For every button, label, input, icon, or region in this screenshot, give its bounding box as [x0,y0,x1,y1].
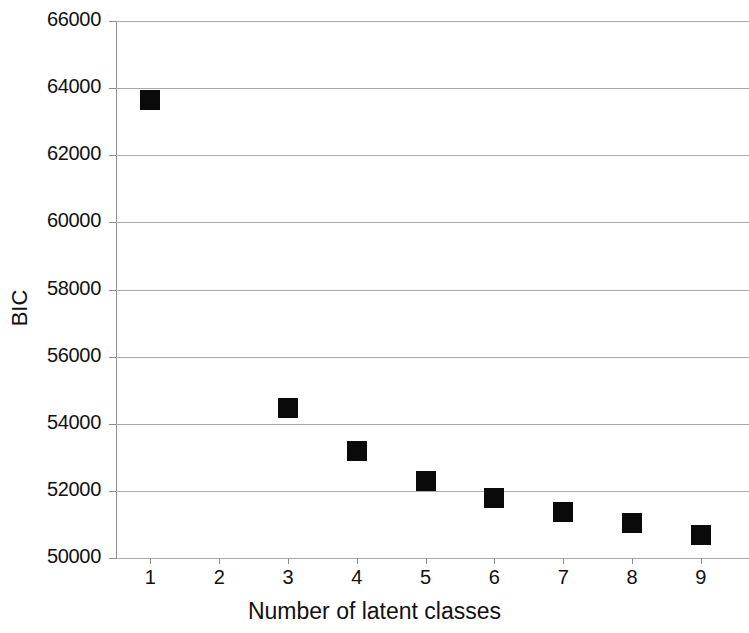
x-axis-title: Number of latent classes [0,598,749,625]
x-axis-tick-label: 7 [543,566,583,589]
data-point-marker [278,398,298,418]
y-axis-tick [109,155,116,156]
y-axis-title: BIC [7,268,33,348]
data-point-marker [416,471,436,491]
x-axis-tick [150,558,151,564]
y-axis-tick-label: 54000 [0,411,101,434]
y-axis-tick-label: 60000 [0,209,101,232]
y-axis-tick [109,88,116,89]
x-axis-tick-label: 1 [130,566,170,589]
y-axis-tick [109,21,116,22]
y-axis-tick-label: 66000 [0,8,101,31]
x-axis-tick [288,558,289,564]
gridline [116,424,749,425]
gridline [116,155,749,156]
gridline [116,222,749,223]
y-axis-tick-label: 64000 [0,75,101,98]
x-axis-tick-label: 4 [337,566,377,589]
data-point-marker [347,441,367,461]
chart-page: 5000052000540005600058000600006200064000… [0,0,749,633]
x-axis-tick [494,558,495,564]
gridline [116,491,749,492]
x-axis-tick-label: 8 [612,566,652,589]
gridline [116,88,749,89]
y-axis-tick [109,491,116,492]
x-axis-tick [701,558,702,564]
x-axis-tick-label: 6 [474,566,514,589]
gridline [116,558,749,559]
y-axis-tick [109,424,116,425]
data-point-marker [691,525,711,545]
x-axis-tick-label: 3 [268,566,308,589]
y-axis-tick [109,558,116,559]
x-axis-tick [563,558,564,564]
y-axis-tick [109,290,116,291]
x-axis-tick-label: 9 [681,566,721,589]
x-axis-tick [426,558,427,564]
y-axis-tick [109,222,116,223]
gridline [116,21,749,22]
x-axis-tick [219,558,220,564]
gridline [116,357,749,358]
y-axis-tick-label: 52000 [0,478,101,501]
data-point-marker [622,513,642,533]
x-axis-tick-label: 5 [406,566,446,589]
y-axis-tick [109,357,116,358]
x-axis-tick [357,558,358,564]
x-axis-tick-label: 2 [199,566,239,589]
y-axis-tick-label: 62000 [0,142,101,165]
data-point-marker [140,90,160,110]
data-point-marker [553,502,573,522]
x-axis-tick [632,558,633,564]
data-point-marker [484,488,504,508]
y-axis-tick-label: 50000 [0,545,101,568]
gridline [116,290,749,291]
